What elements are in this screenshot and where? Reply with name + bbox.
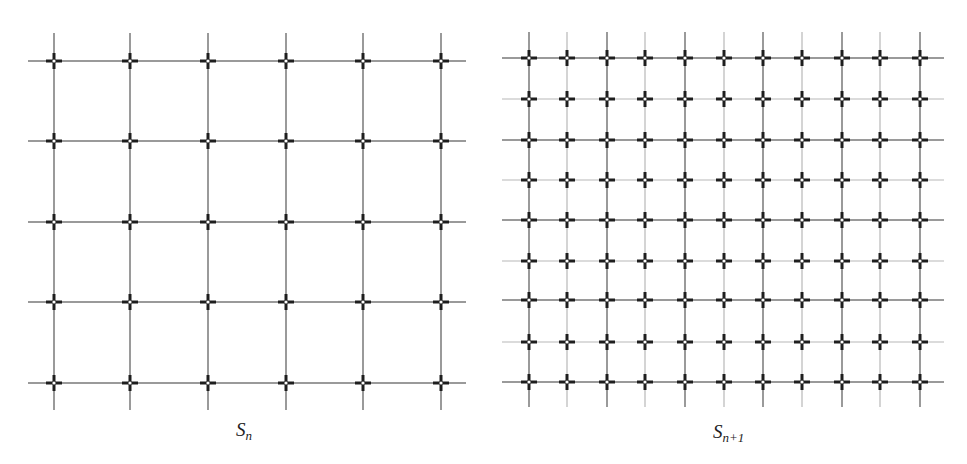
vertex-cross-icon [521,292,537,308]
vertex-cross-icon [599,172,615,188]
vertex-cross-icon [559,172,575,188]
vertex-cross-icon [794,50,810,66]
vertex-cross-icon [755,253,771,269]
vertex-cross-icon [559,292,575,308]
vertex-cross-icon [872,374,888,390]
vertex-cross-icon [521,132,537,148]
label-subscript: n+1 [723,430,745,445]
vertex-cross-icon [716,374,732,390]
vertex-cross-icon [46,133,62,149]
grid-panel-S_n+1 [502,32,944,407]
vertex-cross-icon [200,294,216,310]
vertex-cross-icon [46,375,62,391]
vertex-cross-icon [912,132,928,148]
vertex-cross-icon [599,253,615,269]
vertex-cross-icon [599,212,615,228]
vertex-cross-icon [521,172,537,188]
grid-diagram [0,0,967,464]
vertex-cross-icon [716,292,732,308]
vertex-cross-icon [677,374,693,390]
label-main: S [713,421,723,442]
vertex-cross-icon [794,334,810,350]
vertex-cross-icon [872,132,888,148]
vertex-cross-icon [599,132,615,148]
vertex-cross-icon [637,50,653,66]
vertex-cross-icon [755,50,771,66]
grid-panel-S_n [28,33,466,410]
vertex-cross-icon [355,294,371,310]
vertex-cross-icon [521,91,537,107]
vertex-cross-icon [433,53,449,69]
vertex-cross-icon [521,212,537,228]
vertex-cross-icon [794,91,810,107]
vertex-cross-icon [794,212,810,228]
vertex-cross-icon [122,214,138,230]
vertex-cross-icon [559,253,575,269]
vertex-cross-icon [834,334,850,350]
vertex-cross-icon [599,292,615,308]
vertex-cross-icon [912,172,928,188]
vertex-cross-icon [637,253,653,269]
vertex-cross-icon [278,133,294,149]
vertex-cross-icon [872,253,888,269]
vertex-cross-icon [912,212,928,228]
vertex-cross-icon [755,132,771,148]
vertex-cross-icon [716,253,732,269]
vertex-cross-icon [521,374,537,390]
vertex-cross-icon [834,253,850,269]
vertex-cross-icon [200,53,216,69]
vertex-cross-icon [200,133,216,149]
vertex-cross-icon [794,374,810,390]
vertex-cross-icon [677,132,693,148]
vertex-cross-icon [794,132,810,148]
vertex-cross-icon [637,374,653,390]
vertex-cross-icon [912,334,928,350]
vertex-cross-icon [122,53,138,69]
vertex-cross-icon [637,292,653,308]
vertex-cross-icon [912,374,928,390]
vertex-cross-icon [559,132,575,148]
label-main: S [236,419,246,440]
vertex-cross-icon [794,253,810,269]
vertex-cross-icon [716,212,732,228]
vertex-cross-icon [677,212,693,228]
vertex-cross-icon [716,50,732,66]
vertex-cross-icon [122,375,138,391]
vertex-cross-icon [433,294,449,310]
vertex-cross-icon [278,53,294,69]
vertex-cross-icon [200,375,216,391]
vertex-cross-icon [559,212,575,228]
vertex-cross-icon [755,334,771,350]
vertex-cross-icon [122,133,138,149]
vertex-cross-icon [912,253,928,269]
vertex-cross-icon [755,212,771,228]
vertex-cross-icon [278,294,294,310]
vertex-cross-icon [637,172,653,188]
vertex-cross-icon [355,214,371,230]
vertex-cross-icon [872,50,888,66]
vertex-cross-icon [834,172,850,188]
vertex-cross-icon [872,334,888,350]
vertex-cross-icon [559,50,575,66]
vertex-cross-icon [355,133,371,149]
vertex-cross-icon [637,132,653,148]
vertex-cross-icon [872,212,888,228]
vertex-cross-icon [872,172,888,188]
vertex-cross-icon [46,294,62,310]
vertex-cross-icon [46,214,62,230]
vertex-cross-icon [834,91,850,107]
vertex-cross-icon [637,91,653,107]
vertex-cross-icon [122,294,138,310]
vertex-cross-icon [599,374,615,390]
label-subscript: n [246,428,253,443]
panel-label-s-n: Sn [236,419,252,444]
vertex-cross-icon [716,132,732,148]
vertex-cross-icon [834,50,850,66]
vertex-cross-icon [716,334,732,350]
vertex-cross-icon [599,91,615,107]
vertex-cross-icon [278,214,294,230]
vertex-cross-icon [559,91,575,107]
vertex-cross-icon [433,214,449,230]
vertex-cross-icon [834,212,850,228]
vertex-cross-icon [355,375,371,391]
